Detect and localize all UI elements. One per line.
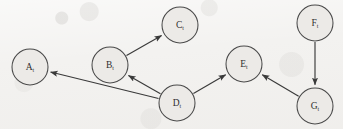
graph-node-d[interactable]: Dt — [159, 85, 195, 121]
edge-d-b — [128, 75, 160, 93]
graph-node-g[interactable]: Gt — [297, 88, 333, 124]
nodes-layer: AtBtCtDtEtFtGt — [12, 5, 333, 124]
graph-node-f[interactable]: Ft — [297, 5, 333, 41]
edge-b-c — [127, 36, 162, 56]
edge-d-e — [193, 75, 225, 94]
graph-node-b[interactable]: Bt — [92, 47, 128, 83]
graph-node-e[interactable]: Et — [226, 46, 262, 82]
edge-g-e — [262, 75, 298, 97]
graph-node-c[interactable]: Ct — [162, 7, 198, 43]
graph-canvas: AtBtCtDtEtFtGt — [0, 0, 343, 129]
graph-figure: AtBtCtDtEtFtGt — [0, 0, 343, 129]
graph-node-a[interactable]: At — [12, 49, 48, 85]
